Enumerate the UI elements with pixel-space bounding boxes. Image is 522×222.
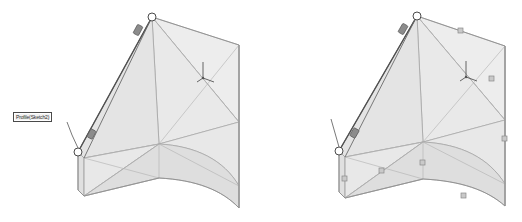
triad-origin-dot	[465, 76, 467, 78]
callout-leader	[331, 119, 339, 147]
profile-sketch2-callout[interactable]: Profile(Sketch2)	[13, 112, 52, 122]
vertex-handle-top[interactable]	[148, 13, 156, 21]
figure-root: Profile(Sketch2)	[0, 0, 522, 222]
loft-model-right[interactable]	[261, 0, 522, 222]
vertex-handle-bottom[interactable]	[74, 148, 82, 156]
face-left-end	[339, 151, 345, 198]
edge-handle-right-upper[interactable]	[489, 76, 494, 81]
loft-viewport-left[interactable]: Profile(Sketch2)	[0, 0, 261, 222]
edge-handle-top-slope[interactable]	[458, 28, 463, 33]
loft-viewport-right[interactable]: Profile(Sketch2)	[261, 0, 522, 222]
edge-handle-sweep-bottom[interactable]	[461, 193, 466, 198]
face-left-end	[78, 152, 84, 196]
leader-line	[67, 122, 78, 148]
callout-leader	[67, 122, 78, 148]
solid-faces	[78, 17, 239, 208]
edge-handle-left-vertical[interactable]	[342, 176, 347, 181]
solid-faces	[339, 16, 505, 206]
loft-model-left[interactable]	[0, 0, 261, 222]
vertex-handle-bottom[interactable]	[335, 147, 343, 155]
drag-grip-upper[interactable]	[133, 24, 143, 36]
edge-handle-box-bottom[interactable]	[379, 168, 384, 173]
triad-origin-dot	[202, 77, 204, 79]
leader-line	[331, 119, 339, 147]
edge-handle-box-vertical[interactable]	[420, 160, 425, 165]
vertex-handle-top[interactable]	[413, 12, 421, 20]
edge-handle-right-mid[interactable]	[502, 136, 507, 141]
